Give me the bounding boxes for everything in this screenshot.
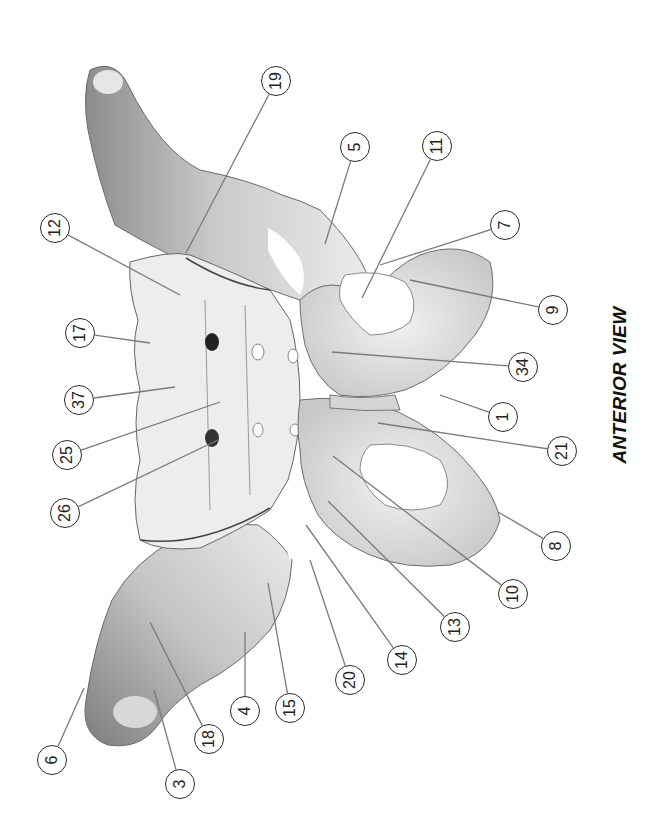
callout-label-19: 19 <box>261 66 291 96</box>
callout-number: 15 <box>282 699 298 717</box>
callout-label-17: 17 <box>65 318 95 348</box>
sacral-foramen <box>288 349 298 363</box>
callout-number: 6 <box>44 756 60 765</box>
iliac-tubercle-upper <box>93 70 123 94</box>
callout-number: 5 <box>347 143 363 152</box>
callout-label-20: 20 <box>335 665 365 695</box>
callout-label-37: 37 <box>64 385 94 415</box>
callout-number: 3 <box>172 780 188 789</box>
callout-label-14: 14 <box>387 645 417 675</box>
callout-number: 11 <box>429 138 445 155</box>
callout-number: 18 <box>201 730 217 748</box>
callout-number: 7 <box>497 221 513 230</box>
callout-label-25: 25 <box>52 440 82 470</box>
sacrum <box>130 254 300 549</box>
callout-number: 10 <box>505 585 521 603</box>
callout-number: 12 <box>47 219 63 237</box>
callout-label-6: 6 <box>37 745 67 775</box>
callout-label-3: 3 <box>165 769 195 799</box>
ilium-upper <box>85 66 370 300</box>
sacral-foramen <box>253 423 263 437</box>
leader-line-20 <box>310 560 345 666</box>
callout-number: 4 <box>237 707 253 716</box>
callout-label-11: 11 <box>422 131 452 161</box>
callout-number: 9 <box>545 306 561 315</box>
callout-label-34: 34 <box>508 352 538 382</box>
callout-label-18: 18 <box>194 724 224 754</box>
callout-number: 1 <box>495 413 511 422</box>
callout-number: 21 <box>554 442 570 460</box>
callout-label-9: 9 <box>538 295 568 325</box>
sacral-foramen <box>205 429 219 447</box>
leader-line-8 <box>498 512 543 538</box>
callout-label-5: 5 <box>340 132 370 162</box>
callout-label-8: 8 <box>541 531 571 561</box>
iliac-tubercle-lower <box>113 696 157 728</box>
callout-number: 25 <box>59 446 75 464</box>
pelvis-illustration <box>0 0 656 813</box>
callout-number: 17 <box>72 324 88 342</box>
callout-label-12: 12 <box>40 213 70 243</box>
sacral-foramen <box>205 333 219 351</box>
greater-sciatic-notch-lower <box>284 504 312 560</box>
pubic-symphysis <box>330 395 400 411</box>
callout-number: 34 <box>515 358 531 376</box>
callout-label-7: 7 <box>490 210 520 240</box>
sacral-foramen <box>252 344 264 360</box>
callout-number: 8 <box>548 542 564 551</box>
callout-number: 20 <box>342 671 358 689</box>
callout-label-15: 15 <box>275 693 305 723</box>
callout-label-21: 21 <box>547 436 577 466</box>
callout-number: 19 <box>268 72 284 90</box>
callout-number: 14 <box>394 651 410 669</box>
callout-label-13: 13 <box>440 612 470 642</box>
leader-line-6 <box>58 688 84 746</box>
callout-label-1: 1 <box>488 402 518 432</box>
callout-label-26: 26 <box>50 498 80 528</box>
leader-line-1 <box>440 395 489 412</box>
figure-caption: ANTERIOR VIEW <box>609 307 631 464</box>
callout-label-10: 10 <box>498 579 528 609</box>
callout-label-4: 4 <box>230 696 260 726</box>
callout-number: 13 <box>447 618 463 636</box>
callout-number: 26 <box>57 504 73 522</box>
callout-number: 37 <box>71 391 87 409</box>
